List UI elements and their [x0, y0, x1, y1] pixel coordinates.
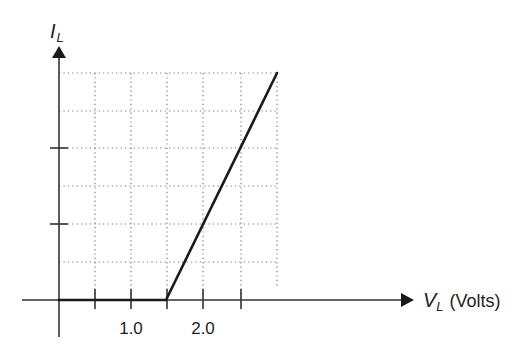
- grid: [59, 73, 277, 298]
- y-axis-label: IL: [50, 20, 64, 45]
- x-axis-label: VL(Volts): [423, 289, 501, 314]
- x-axis-unit: (Volts): [450, 291, 501, 311]
- x-axis-arrow-icon: [401, 293, 414, 307]
- x-tick-label-2: 2.0: [191, 319, 215, 338]
- y-axis-subscript: L: [57, 30, 64, 45]
- iv-characteristic-chart: 1.0 2.0 IL VL(Volts): [0, 0, 525, 351]
- x-axis-subscript: L: [436, 299, 443, 314]
- x-tick-label-1: 1.0: [119, 319, 143, 338]
- y-axis-arrow-icon: [52, 46, 66, 58]
- y-axis-symbol: I: [50, 20, 56, 42]
- y-axis: [50, 46, 68, 337]
